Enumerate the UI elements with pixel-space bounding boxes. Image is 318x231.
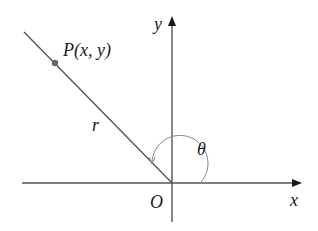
origin-label: O [150, 192, 163, 212]
radius-label: r [92, 115, 100, 135]
point-p [52, 60, 58, 66]
y-axis-label: y [152, 14, 162, 34]
point-label: P(x, y) [62, 40, 111, 61]
x-axis-label: x [289, 190, 298, 210]
polar-coordinate-diagram: P(x, y) r θ O x y [0, 0, 318, 231]
angle-label: θ [197, 139, 206, 159]
